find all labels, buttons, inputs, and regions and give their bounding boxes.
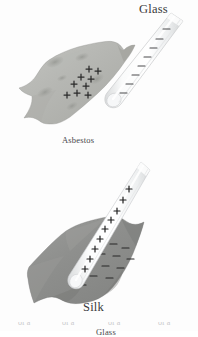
asbestos-panel-illustration bbox=[0, 0, 198, 160]
label-glass-top: Glass bbox=[139, 2, 168, 17]
artifact-fragment-1: of a bbox=[18, 322, 30, 327]
artifact-fragment-2: of a bbox=[62, 322, 74, 327]
panel-asbestos: Glass Asbestos bbox=[0, 0, 198, 160]
label-asbestos: Asbestos bbox=[62, 135, 94, 145]
label-silk: Silk bbox=[83, 300, 104, 315]
artifact-fragment-3: of a bbox=[108, 322, 120, 327]
page-bottom-artifact: of a of a of a of a bbox=[0, 322, 198, 331]
artifact-fragment-4: of a bbox=[158, 322, 170, 327]
